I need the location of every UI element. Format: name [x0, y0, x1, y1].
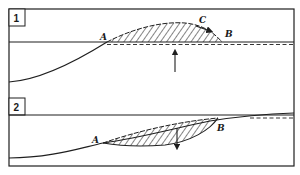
panel-1-curve — [9, 42, 107, 82]
panel-2: 2 A B — [9, 98, 294, 158]
panel-1-point-b: B — [224, 29, 233, 39]
panel-2-hatched-lens — [103, 118, 218, 146]
panel-1-number: 1 — [14, 13, 20, 24]
two-panel-diagram: 1 A B C 2 A B — [0, 0, 300, 175]
panel-2-point-b: B — [216, 123, 225, 133]
panel-2-point-a: A — [91, 135, 99, 145]
panel-1-hatched-hump — [107, 23, 222, 42]
panel-1-point-a: A — [99, 32, 107, 42]
panel-1: 1 A B C — [9, 9, 294, 82]
panel-2-number: 2 — [14, 102, 20, 113]
panel-1-point-c: C — [199, 15, 207, 25]
